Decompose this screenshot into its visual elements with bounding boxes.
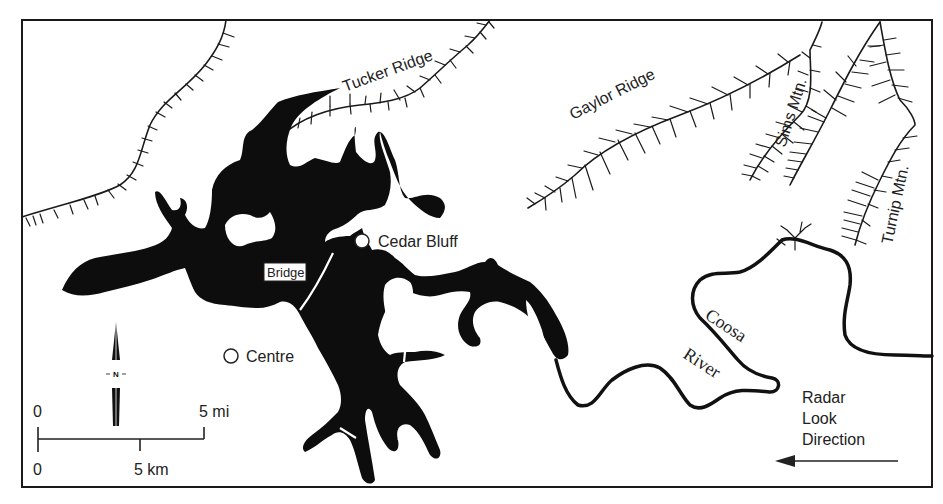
label-gaylor-ridge: Gaylor Ridge [567,65,658,123]
scale-mi-start: 0 [33,403,42,420]
coosa-river [556,239,932,408]
label-sims-mtn: Sims Mtn. [772,76,810,149]
radar-text-line3: Direction [802,431,865,448]
town-marker-cedar-bluff [355,234,369,248]
left-escarpment [22,20,234,226]
label-cedar-bluff: Cedar Bluff [378,233,458,250]
scale-km-mid: 5 km [134,461,169,478]
radar-text-line1: Radar [802,389,846,406]
scale-mi-end: 5 mi [199,403,229,420]
scale-km-start: 0 [33,461,42,478]
sims-mtn-ridge [742,22,880,185]
north-label: N [113,370,119,379]
weiss-lake [62,88,568,484]
radar-text-line2: Look [802,410,838,427]
label-coosa: Coosa [702,305,751,346]
arrow-left-icon [775,455,898,467]
gaylor-ridge [527,54,800,210]
label-centre: Centre [246,348,294,365]
scale-bar: 0 5 mi 0 5 km [33,403,229,478]
label-bridge: Bridge [267,265,305,280]
town-marker-centre [224,349,238,363]
radar-look-direction: Radar Look Direction [775,389,898,467]
north-arrow-icon: N [106,322,126,426]
label-river: River [680,344,724,383]
map-canvas: Tucker Ridge Gaylor Ridge Sims Mtn. Turn… [0,0,943,504]
